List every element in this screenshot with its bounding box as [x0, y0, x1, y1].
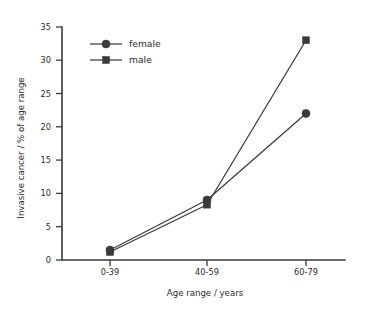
data-point-female-0-39	[106, 246, 114, 254]
y-axis-title: Invasive cancer / % of age range	[16, 77, 26, 218]
legend-label-male: male	[129, 54, 152, 65]
legend-marker-square-icon	[103, 57, 110, 64]
y-tick-label: 5	[46, 222, 51, 232]
y-tick-label: 15	[41, 155, 51, 165]
legend-label-female: female	[129, 38, 161, 49]
invasive-cancer-line-chart: 0 5 10 15 20 25 30 35 0-39 40-59 60-79 A…	[0, 0, 380, 312]
y-tick-label: 30	[41, 55, 51, 65]
y-tick-label: 0	[46, 255, 51, 265]
data-point-male-60-79	[303, 37, 310, 44]
y-tick-label: 25	[41, 89, 51, 99]
data-point-female-40-59	[203, 196, 211, 204]
x-tick-label: 0-39	[101, 267, 120, 277]
y-tick-label: 35	[41, 22, 51, 32]
y-tick-label: 10	[41, 188, 51, 198]
chart-background	[0, 0, 380, 312]
x-axis-title: Age range / years	[167, 288, 244, 298]
y-tick-label: 20	[41, 122, 51, 132]
x-tick-label: 60-79	[294, 267, 318, 277]
legend-marker-circle-icon	[102, 40, 110, 48]
x-tick-label: 40-59	[195, 267, 219, 277]
data-point-female-60-79	[302, 110, 310, 118]
